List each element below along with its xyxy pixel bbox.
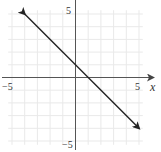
y-min-label: −5 (62, 139, 73, 150)
plotted-line (25, 14, 139, 128)
x-max-label: 5 (135, 81, 140, 92)
coordinate-plane: −5 5 x 5 −5 (0, 0, 161, 152)
x-min-label: −5 (2, 81, 13, 92)
x-axis-label: x (149, 80, 156, 94)
y-max-label: 5 (66, 5, 71, 16)
